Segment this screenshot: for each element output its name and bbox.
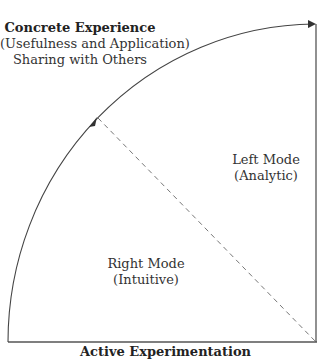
- bottom-label: Active Experimentation: [80, 344, 250, 360]
- top-label-title: Concrete Experience: [0, 20, 160, 36]
- left-region-subtitle: (Intuitive): [104, 272, 188, 288]
- left-region-title: Right Mode: [104, 256, 188, 272]
- right-region-label: Left Mode (Analytic): [228, 152, 304, 184]
- left-region-label: Right Mode (Intuitive): [104, 256, 188, 288]
- top-label-line3: Sharing with Others: [0, 52, 160, 68]
- top-label: Concrete Experience (Usefulness and Appl…: [0, 20, 160, 68]
- top-label-line2: (Usefulness and Application): [0, 36, 160, 52]
- right-region-title: Left Mode: [228, 152, 304, 168]
- right-region-subtitle: (Analytic): [228, 168, 304, 184]
